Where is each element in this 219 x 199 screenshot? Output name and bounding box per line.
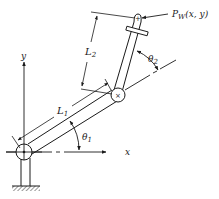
x-axis-label: x	[125, 147, 130, 157]
y-axis-label: y	[20, 51, 27, 61]
wrist-mark: +	[135, 15, 141, 23]
link-1-extension	[125, 60, 176, 90]
pw-leader	[142, 14, 168, 18]
robot-arm-diagram: × + L1 L2 θ1 θ2 y x PW(x, y)	[0, 0, 219, 199]
pedestal	[21, 158, 30, 186]
theta2-label: θ2	[148, 54, 158, 66]
wrist-flange	[126, 26, 148, 36]
elbow-mark: ×	[115, 92, 121, 100]
ground-base	[12, 186, 40, 191]
pw-label: PW(x, y)	[171, 9, 209, 21]
link-2	[114, 14, 141, 92]
link-1	[28, 90, 122, 154]
l2-label: L2	[84, 46, 97, 59]
theta1-label: θ1	[82, 132, 92, 144]
l1-label: L1	[56, 105, 68, 118]
